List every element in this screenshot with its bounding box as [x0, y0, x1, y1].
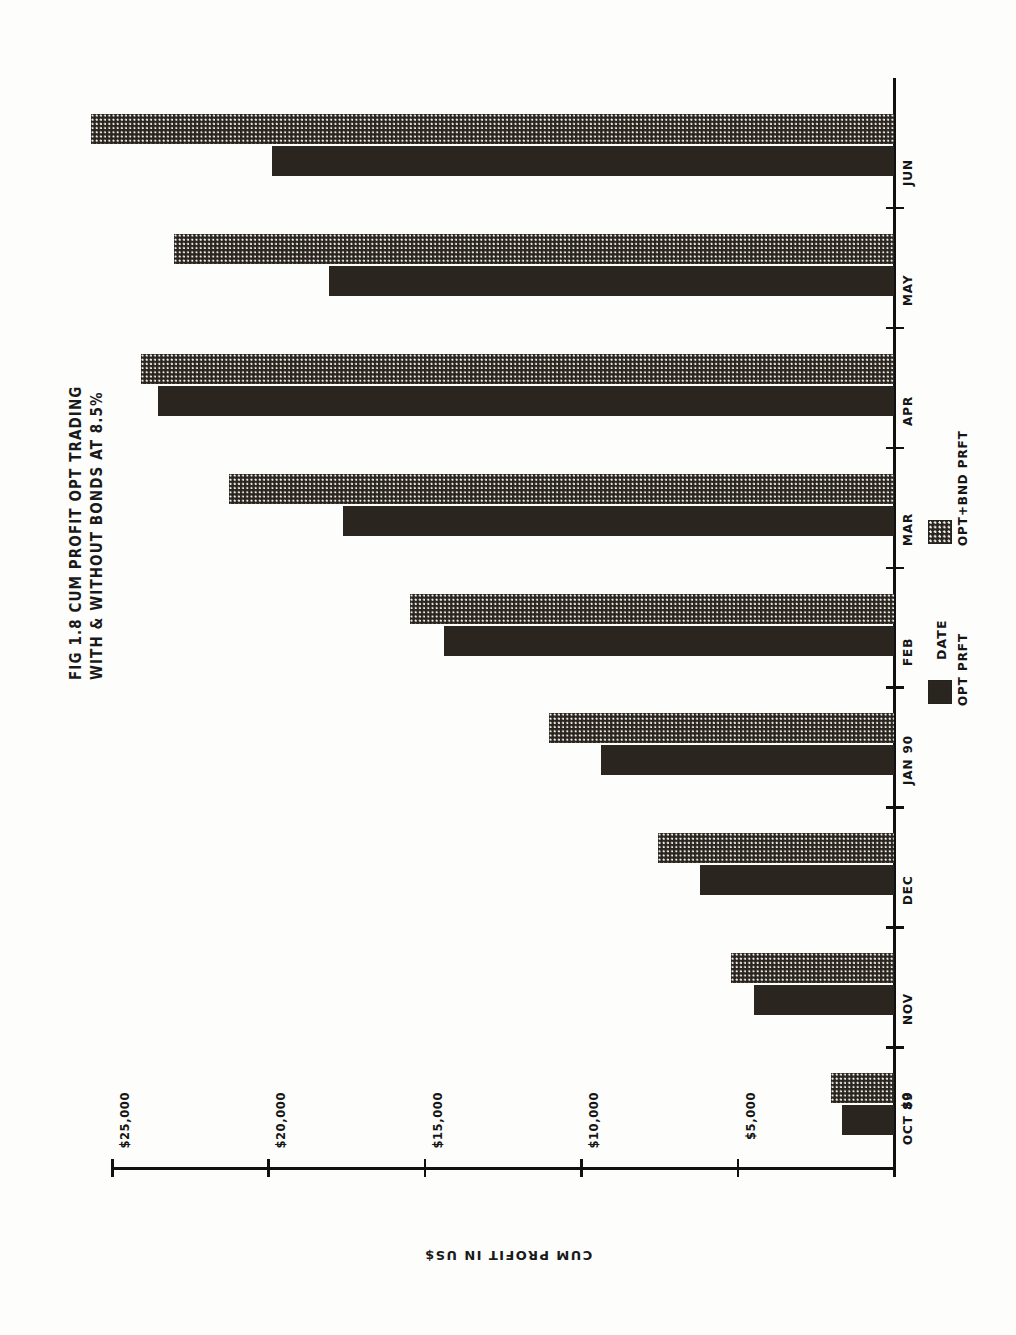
legend-entry-opt-prft[interactable]: OPT PRFT	[920, 680, 996, 790]
category-label-jan-90: JAN 90	[901, 701, 917, 785]
category-label-oct-89: OCT 89	[901, 1061, 917, 1145]
category-label-jun: JUN	[901, 102, 917, 186]
bar-nov-solid	[754, 985, 894, 1015]
bar-mar-solid	[343, 506, 894, 536]
value-axis-spine	[112, 1167, 896, 1170]
category-label-apr: APR	[901, 342, 917, 426]
value-tick-2	[424, 1159, 427, 1177]
bar-may-solid	[329, 266, 894, 296]
value-tick-label-1: $20,000	[274, 1092, 290, 1182]
bar-dec-dotted	[658, 833, 894, 863]
category-tick-3	[886, 447, 904, 450]
bar-oct-89-dotted	[831, 1073, 894, 1103]
bar-jun-dotted	[91, 114, 894, 144]
category-label-may: MAY	[901, 222, 917, 306]
bar-dec-solid	[700, 865, 894, 895]
category-tick-7	[886, 926, 904, 929]
chart-legend: OPT PRFT OPT+BND PRFT	[920, 560, 996, 790]
scanned-figure-page: FIG 1.8 CUM PROFIT OPT TRADING WITH & WI…	[0, 0, 1016, 1335]
category-label-mar: MAR	[901, 462, 917, 546]
value-tick-5	[893, 1159, 896, 1177]
category-tick-5	[886, 686, 904, 689]
value-tick-label-0: $25,000	[118, 1092, 134, 1182]
bar-nov-dotted	[731, 953, 894, 983]
category-label-nov: NOV	[901, 941, 917, 1025]
value-tick-4	[737, 1159, 740, 1177]
bar-jun-solid	[272, 146, 894, 176]
category-tick-1	[886, 207, 904, 210]
bar-may-dotted	[174, 234, 894, 264]
legend-swatch-solid-icon	[928, 680, 952, 704]
value-tick-label-3: $10,000	[587, 1092, 603, 1182]
bar-apr-dotted	[141, 354, 894, 384]
value-axis-title: CUM PROFIT IN US$	[338, 1248, 678, 1263]
legend-swatch-dotted-icon	[928, 520, 952, 544]
bar-feb-solid	[444, 626, 894, 656]
category-label-dec: DEC	[901, 821, 917, 905]
bar-chart-plot-area: $25,000$20,000$15,000$10,000$5,000$0 JUN…	[0, 0, 1016, 1335]
legend-label-opt-bnd-prft: OPT+BND PRFT	[956, 436, 970, 546]
value-tick-label-2: $15,000	[431, 1092, 447, 1182]
legend-entry-opt-bnd-prft[interactable]: OPT+BND PRFT	[920, 520, 996, 630]
category-tick-4	[886, 567, 904, 570]
bar-oct-89-solid	[842, 1105, 894, 1135]
category-tick-2	[886, 327, 904, 330]
value-tick-0	[111, 1159, 114, 1177]
category-tick-8	[886, 1046, 904, 1049]
bar-mar-dotted	[229, 474, 894, 504]
value-tick-3	[580, 1159, 583, 1177]
bar-apr-solid	[158, 386, 894, 416]
value-tick-1	[267, 1159, 270, 1177]
value-tick-label-4: $5,000	[744, 1092, 760, 1182]
category-label-feb: FEB	[901, 582, 917, 666]
bar-jan-90-dotted	[549, 713, 894, 743]
category-tick-6	[886, 806, 904, 809]
bar-jan-90-solid	[601, 745, 894, 775]
bar-feb-dotted	[410, 594, 894, 624]
